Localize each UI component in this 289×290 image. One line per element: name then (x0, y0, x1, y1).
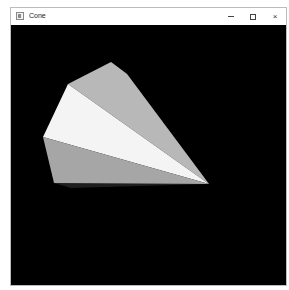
maximize-button[interactable] (242, 8, 264, 25)
render-viewport[interactable] (11, 25, 286, 285)
app-icon[interactable] (16, 12, 24, 20)
close-icon: × (273, 13, 278, 21)
window-title: Cone (29, 11, 46, 21)
close-button[interactable]: × (264, 8, 286, 25)
cone-render (11, 25, 286, 285)
minimize-button[interactable] (220, 8, 242, 25)
app-window: Cone × (10, 7, 287, 286)
title-bar[interactable]: Cone × (11, 8, 286, 25)
maximize-icon (250, 14, 256, 20)
minimize-icon (228, 16, 234, 17)
